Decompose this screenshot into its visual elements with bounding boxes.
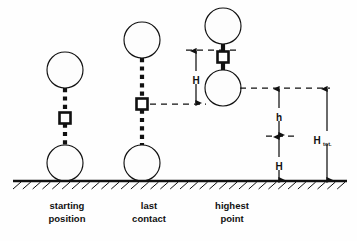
caption-starting-position: startingposition: [49, 200, 86, 224]
square-weight-icon: [60, 113, 71, 124]
ground-hatch-icon: [327, 182, 335, 189]
ground-hatch-icon: [101, 182, 109, 189]
stages-layer: [47, 8, 241, 181]
stage-last-contact: [124, 22, 160, 181]
ground-hatch-icon: [288, 182, 296, 189]
ground-hatch-icon: [23, 182, 31, 189]
caption-line2-last-contact: contact: [132, 213, 167, 224]
ground-hatch-icon: [180, 182, 188, 189]
ground-layer: [13, 181, 347, 189]
stage-starting-position: [47, 52, 83, 181]
ground-hatch-icon: [62, 182, 70, 189]
circle-ball-icon-lower: [124, 145, 160, 181]
circle-ball-icon-upper: [124, 22, 160, 58]
dimension-label-H-upper: H: [192, 75, 199, 86]
circle-ball-icon-lower: [205, 70, 241, 106]
diagram-canvas: HhHHtot. startingpositionlastcontacthigh…: [0, 0, 357, 241]
ground-hatch-icon: [209, 182, 217, 189]
stage-highest-point: [205, 8, 241, 106]
caption-line2-highest-point: point: [220, 213, 244, 224]
ground-hatch-icon: [170, 182, 178, 189]
circle-ball-icon-upper: [205, 8, 241, 44]
ground-hatch-icon: [337, 182, 345, 189]
ground-hatch-icon: [42, 182, 50, 189]
ground-hatch-icon: [298, 182, 306, 189]
ground-hatch-icon: [92, 182, 100, 189]
ground-hatch-icon: [200, 182, 208, 189]
ground-hatch-icon: [318, 182, 326, 189]
ground-hatch-icon: [121, 182, 129, 189]
ground-hatch-icon: [52, 182, 60, 189]
dimension-label-h-rebound: h: [276, 112, 282, 123]
caption-highest-point: highestpoint: [215, 200, 250, 224]
caption-line1-starting-position: starting: [50, 200, 85, 211]
ground-hatch-icon: [308, 182, 316, 189]
ground-hatch-icon: [249, 182, 257, 189]
dimension-label-H-lower: H: [275, 161, 282, 172]
ground-hatch-icon: [160, 182, 168, 189]
square-weight-icon: [137, 99, 148, 110]
ground-hatch-icon: [151, 182, 159, 189]
dimension-subscript-H-total: tot.: [323, 141, 332, 147]
dimension-h-rebound: h: [240, 88, 330, 136]
dimension-label-H-total: H: [313, 135, 320, 146]
ground-hatch-icon: [219, 182, 227, 189]
circle-ball-icon-lower: [47, 145, 83, 181]
dimension-H-total: Htot.: [313, 89, 332, 180]
ground-hatch-icon: [239, 182, 247, 189]
ground-hatch-icon: [141, 182, 149, 189]
ground-hatch-icon: [229, 182, 237, 189]
ground-hatch-icon: [111, 182, 119, 189]
ground-hatch-icon: [82, 182, 90, 189]
caption-line2-starting-position: position: [49, 213, 86, 224]
caption-last-contact: lastcontact: [132, 200, 167, 224]
dimensions-layer: HhHHtot.: [150, 50, 332, 180]
ground-hatch-icon: [131, 182, 139, 189]
ground-hatch-icon: [190, 182, 198, 189]
ground-hatch-icon: [259, 182, 267, 189]
dimension-H-lower: H: [275, 137, 282, 180]
ground-hatch-icon: [278, 182, 286, 189]
circle-ball-icon-upper: [47, 52, 83, 88]
ground-hatch-icon: [13, 182, 21, 189]
physics-diagram-figure: HhHHtot. startingpositionlastcontacthigh…: [0, 0, 357, 241]
caption-line1-highest-point: highest: [215, 200, 250, 211]
ground-hatch-icon: [72, 182, 80, 189]
caption-line1-last-contact: last: [141, 200, 158, 211]
ground-hatch-icon: [268, 182, 276, 189]
ground-hatch-icon: [33, 182, 41, 189]
square-weight-icon: [218, 52, 229, 63]
captions-layer: startingpositionlastcontacthighestpoint: [49, 200, 250, 224]
